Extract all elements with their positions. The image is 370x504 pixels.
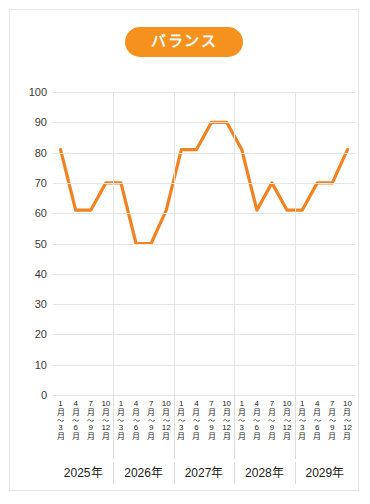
gridline-horizontal bbox=[53, 92, 355, 93]
year-separator bbox=[234, 395, 235, 459]
quarter-label-group: 1月〜3月4月〜6月7月〜9月10月〜12月 bbox=[295, 397, 355, 459]
y-axis-tick-label: 80 bbox=[15, 148, 47, 159]
chart-title-badge: バランス bbox=[125, 27, 243, 57]
x-axis-tick-label: 10月〜12月 bbox=[279, 397, 294, 459]
x-axis-tick-label: 4月〜6月 bbox=[68, 397, 83, 459]
y-axis-tick-label: 100 bbox=[15, 87, 47, 98]
x-axis-tick-label: 10月〜12月 bbox=[340, 397, 355, 459]
year-separator bbox=[113, 395, 114, 459]
chart-card: バランス 1009080706050403020100 1月〜3月4月〜6月7月… bbox=[9, 9, 359, 491]
year-label: 2028年 bbox=[234, 462, 294, 488]
x-axis-tick-label: 10月〜12月 bbox=[98, 397, 113, 459]
y-axis-tick-label: 60 bbox=[15, 208, 47, 219]
x-axis-tick-label: 10月〜12月 bbox=[219, 397, 234, 459]
year-label: 2026年 bbox=[113, 462, 173, 488]
x-axis-tick-label: 7月〜9月 bbox=[204, 397, 219, 459]
quarter-label-group: 1月〜3月4月〜6月7月〜9月10月〜12月 bbox=[234, 397, 294, 459]
x-axis-tick-label: 4月〜6月 bbox=[189, 397, 204, 459]
x-axis-tick-label: 1月〜3月 bbox=[234, 397, 249, 459]
x-axis-tick-label: 7月〜9月 bbox=[83, 397, 98, 459]
y-axis-tick-label: 70 bbox=[15, 178, 47, 189]
plot-area bbox=[53, 92, 355, 395]
gridline-horizontal bbox=[53, 122, 355, 123]
x-axis-tick-label: 7月〜9月 bbox=[264, 397, 279, 459]
y-axis-tick-label: 30 bbox=[15, 299, 47, 310]
y-axis: 1009080706050403020100 bbox=[10, 92, 47, 395]
x-axis-tick-label: 7月〜9月 bbox=[325, 397, 340, 459]
x-axis-tick-label: 7月〜9月 bbox=[144, 397, 159, 459]
y-axis-tick-label: 20 bbox=[15, 329, 47, 340]
quarter-label-group: 1月〜3月4月〜6月7月〜9月10月〜12月 bbox=[53, 397, 113, 459]
y-axis-tick-label: 10 bbox=[15, 360, 47, 371]
chart-title-container: バランス bbox=[10, 27, 358, 57]
year-label: 2027年 bbox=[174, 462, 234, 488]
y-axis-tick-label: 90 bbox=[15, 117, 47, 128]
x-axis-tick-label: 1月〜3月 bbox=[295, 397, 310, 459]
gridline-horizontal bbox=[53, 183, 355, 184]
y-axis-tick-label: 50 bbox=[15, 239, 47, 250]
gridline-vertical bbox=[174, 92, 175, 395]
x-axis-tick-label: 1月〜3月 bbox=[113, 397, 128, 459]
x-axis-tick-label: 1月〜3月 bbox=[53, 397, 68, 459]
y-axis-tick-label: 40 bbox=[15, 269, 47, 280]
x-axis-tick-label: 1月〜3月 bbox=[174, 397, 189, 459]
gridline-horizontal bbox=[53, 213, 355, 214]
gridline-horizontal bbox=[53, 274, 355, 275]
y-axis-tick-label: 0 bbox=[15, 390, 47, 401]
x-axis-tick-label: 4月〜6月 bbox=[249, 397, 264, 459]
x-axis-year-labels: 2025年2026年2027年2028年2029年 bbox=[53, 462, 355, 488]
gridline-horizontal bbox=[53, 365, 355, 366]
gridline-vertical bbox=[113, 92, 114, 395]
year-label: 2029年 bbox=[295, 462, 355, 488]
gridline-horizontal bbox=[53, 304, 355, 305]
x-axis-tick-label: 10月〜12月 bbox=[159, 397, 174, 459]
x-axis-tick-label: 4月〜6月 bbox=[310, 397, 325, 459]
gridline-vertical bbox=[234, 92, 235, 395]
year-separator bbox=[174, 395, 175, 459]
year-separator bbox=[295, 395, 296, 459]
x-axis-tick-label: 4月〜6月 bbox=[128, 397, 143, 459]
gridline-horizontal bbox=[53, 395, 355, 396]
quarter-label-group: 1月〜3月4月〜6月7月〜9月10月〜12月 bbox=[174, 397, 234, 459]
gridline-horizontal bbox=[53, 244, 355, 245]
gridline-horizontal bbox=[53, 153, 355, 154]
gridline-vertical bbox=[295, 92, 296, 395]
year-label: 2025年 bbox=[53, 462, 113, 488]
gridline-horizontal bbox=[53, 334, 355, 335]
x-axis-quarter-labels: 1月〜3月4月〜6月7月〜9月10月〜12月1月〜3月4月〜6月7月〜9月10月… bbox=[53, 397, 355, 459]
quarter-label-group: 1月〜3月4月〜6月7月〜9月10月〜12月 bbox=[113, 397, 173, 459]
